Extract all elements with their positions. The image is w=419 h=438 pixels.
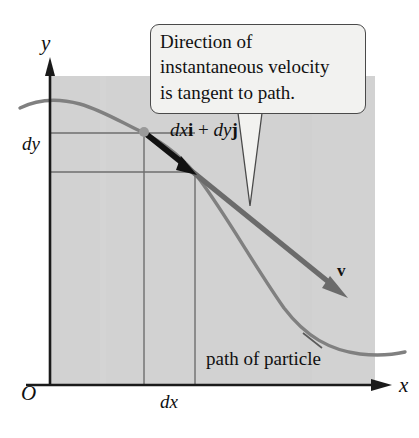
callout-line-3: is tangent to path.	[160, 80, 360, 105]
velocity-vector-label: v	[337, 262, 346, 279]
y-axis-label: y	[41, 33, 50, 54]
unit-vector-j: j	[231, 119, 237, 140]
callout-text: Direction of instantaneous velocity is t…	[160, 29, 360, 105]
physics-figure: Direction of instantaneous velocity is t…	[0, 0, 419, 438]
dx-label: dx	[160, 392, 178, 411]
x-axis-arrowhead	[371, 379, 392, 391]
displacement-dx-term: dx	[170, 119, 188, 140]
dy-label: dy	[22, 134, 40, 153]
callout-line-1: Direction of	[160, 29, 360, 54]
displacement-dy-term: dy	[213, 119, 231, 140]
unit-vector-i: i	[188, 119, 193, 140]
x-axis-label: x	[399, 375, 408, 396]
callout-line-2: instantaneous velocity	[160, 54, 360, 79]
y-axis-arrowhead	[45, 57, 55, 76]
tangent-point-marker	[139, 127, 149, 137]
path-of-particle-label: path of particle	[206, 349, 321, 368]
plus-sign: +	[198, 119, 209, 140]
origin-label: O	[21, 383, 36, 404]
displacement-expression: dxi + dyj	[170, 120, 238, 139]
